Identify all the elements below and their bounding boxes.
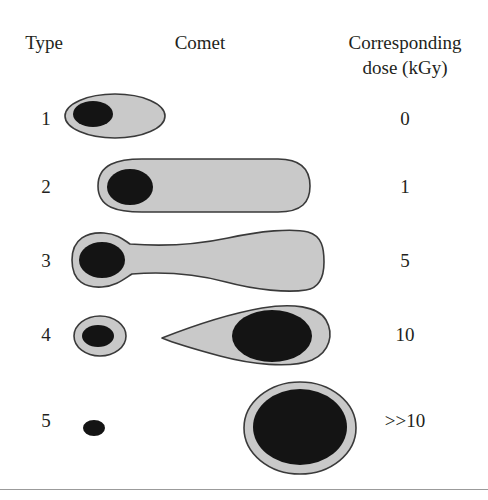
flared-comet-wide-tail-icon	[60, 224, 340, 300]
table-row: 4 10	[0, 300, 488, 372]
table-row: 1 0	[0, 88, 488, 154]
dose-label: 10	[340, 324, 470, 346]
comet-assay-classification-figure: Type Comet Corresponding dose (kGy) 1 0 …	[0, 0, 488, 500]
table-row: 2 1	[0, 154, 488, 224]
dose-label: 1	[340, 176, 470, 198]
comet-illustration-cell	[60, 372, 340, 484]
comet-illustration-cell	[60, 300, 340, 372]
comet-illustration-cell	[60, 154, 340, 224]
comet-illustration-cell	[60, 224, 340, 300]
capsule-comet-short-tail-icon	[60, 154, 340, 224]
oval-comet-no-tail-icon	[60, 88, 340, 154]
figure-header: Type Comet Corresponding dose (kGy)	[0, 0, 488, 86]
column-header-type: Type	[2, 30, 86, 55]
dose-label: 0	[340, 108, 470, 130]
table-row: 3 5	[0, 224, 488, 300]
column-header-dose: Corresponding dose (kGy)	[330, 30, 480, 80]
figure-bottom-rule	[0, 489, 488, 490]
dose-label: >>10	[340, 410, 470, 432]
detached-nucleus-full-comet-icon	[60, 372, 340, 484]
comet-illustration-cell	[60, 88, 340, 154]
teardrop-comet-migrated-nucleus-icon	[60, 300, 340, 372]
dose-label: 5	[340, 250, 470, 272]
table-row: 5 >>10	[0, 372, 488, 484]
column-header-comet: Comet	[140, 30, 260, 55]
